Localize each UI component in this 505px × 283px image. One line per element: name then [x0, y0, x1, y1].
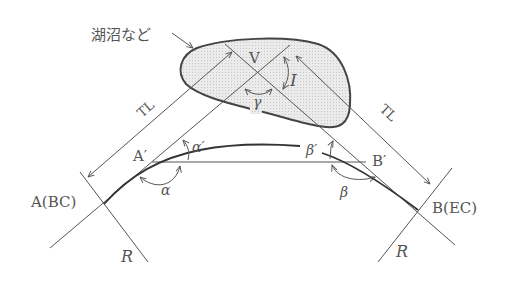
point-A-prime-label: A′: [132, 147, 148, 165]
radius-left-label: R: [120, 247, 133, 266]
point-V-label: V: [248, 49, 261, 67]
tangent-line-left: [50, 45, 290, 248]
tl-left-dimension: [88, 52, 232, 177]
obstacle-label: 湖沼など: [91, 26, 151, 44]
point-B-label: B(EC): [432, 199, 477, 217]
route-curve-diagram: 湖沼など V I γ TL TL A′ α′ α β′ B′ β A(BC) B…: [0, 0, 505, 283]
angle-alpha-label: α: [161, 182, 171, 198]
angle-alpha-prime-label: α′: [192, 139, 205, 155]
radius-line-left: [80, 172, 148, 262]
angle-beta-prime-label: β′: [305, 142, 318, 158]
angle-alpha-prime-arc: [183, 140, 189, 160]
tl-left-label: TL: [134, 97, 157, 120]
radius-right-label: R: [395, 242, 408, 261]
point-A-label: A(BC): [30, 193, 76, 211]
angle-gamma-label: γ: [253, 94, 262, 110]
tl-right-label: TL: [377, 101, 400, 124]
point-B-prime-label: B′: [372, 152, 387, 170]
obstacle-leader-arrow: [172, 33, 193, 48]
angle-I-label: I: [289, 70, 297, 90]
angle-beta-label: β: [339, 184, 348, 200]
